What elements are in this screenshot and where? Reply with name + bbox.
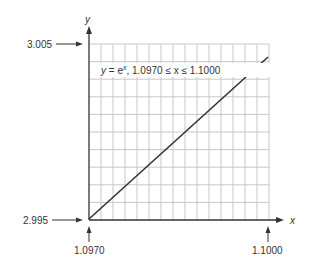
curve-line <box>89 57 268 219</box>
y-top-value: 3.005 <box>27 39 52 50</box>
y-bottom-value: 2.995 <box>23 215 48 226</box>
x-axis-arrow-icon <box>276 217 284 223</box>
chart-canvas: y x 3.005 2.995 1.0970 1.1000 y = ex, 1.… <box>0 0 310 265</box>
x-left-value: 1.0970 <box>74 245 105 256</box>
y-bottom-arrow-icon <box>76 218 83 223</box>
x-left-arrow-icon <box>87 226 92 233</box>
y-axis-arrow-icon <box>86 26 92 34</box>
y-axis-label: y <box>84 14 91 25</box>
x-axis-label: x <box>289 215 296 226</box>
x-right-value: 1.1000 <box>252 245 283 256</box>
y-top-arrow-icon <box>76 42 83 47</box>
x-right-arrow-icon <box>266 226 271 233</box>
chart-annotation: y = ex, 1.0970 ≤ x ≤ 1.1000 <box>100 64 221 76</box>
